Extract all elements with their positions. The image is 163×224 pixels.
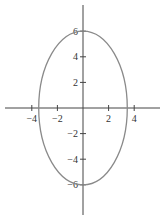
x-tick-label: −4 (26, 113, 37, 124)
x-tick-label: 2 (106, 113, 111, 124)
y-tick-label: 2 (73, 77, 78, 88)
y-tick-label: −2 (67, 128, 78, 139)
y-tick-label: 4 (73, 51, 78, 62)
ellipse-plot: −4−224 642−2−4−6 (0, 0, 163, 224)
x-tick-label: 4 (132, 113, 137, 124)
axes (5, 5, 160, 215)
x-tick-label: −2 (52, 113, 63, 124)
y-tick-label: −4 (67, 154, 78, 165)
